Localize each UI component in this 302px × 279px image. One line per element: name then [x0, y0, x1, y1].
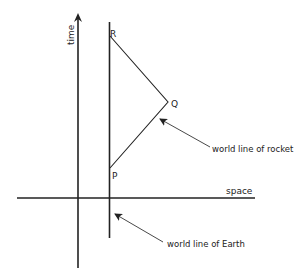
point-label-q: Q	[171, 99, 178, 109]
time-axis-label: time	[66, 24, 76, 45]
rocket-annotation-arrow	[160, 119, 210, 147]
earth-annotation-arrow	[115, 214, 163, 242]
point-label-p: P	[112, 171, 118, 181]
spacetime-diagram: time space R Q P world line of rocket wo…	[0, 0, 302, 279]
rocket-annotation-label: world line of rocket	[212, 144, 294, 154]
diagram-canvas: time space R Q P world line of rocket wo…	[0, 0, 302, 279]
point-label-r: R	[110, 29, 116, 39]
earth-annotation-label: world line of Earth	[167, 239, 245, 249]
space-axis-label: space	[226, 186, 253, 196]
rocket-world-line	[110, 36, 168, 168]
